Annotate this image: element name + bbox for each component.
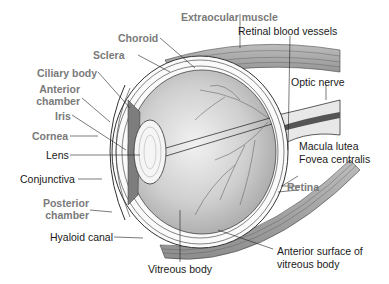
eye-anatomy-diagram: Choroid Extraocular muscle Retinal blood… bbox=[0, 0, 389, 284]
label-hyaloid-canal: Hyaloid canal bbox=[50, 231, 113, 243]
label-vitreous-body: Vitreous body bbox=[148, 263, 212, 275]
label-iris: Iris bbox=[55, 110, 71, 122]
label-retina: Retina bbox=[287, 181, 319, 193]
label-conjunctiva: Conjunctiva bbox=[20, 173, 75, 185]
label-fovea-centralis: Fovea centralis bbox=[299, 153, 370, 165]
label-anterior-chamber-1: Anterior bbox=[36, 83, 80, 95]
label-extraocular-muscle: Extraocular muscle bbox=[181, 11, 278, 23]
label-posterior-chamber-2: chamber bbox=[35, 209, 89, 221]
label-sclera: Sclera bbox=[93, 49, 125, 61]
label-macula-lutea: Macula lutea bbox=[299, 140, 359, 152]
label-retinal-blood-vessels: Retinal blood vessels bbox=[238, 25, 337, 37]
label-anterior-chamber-2: chamber bbox=[34, 95, 80, 107]
label-anterior-surface-1: Anterior surface of bbox=[277, 245, 363, 257]
label-ciliary-body: Ciliary body bbox=[37, 67, 97, 79]
label-posterior-chamber-1: Posterior bbox=[35, 197, 89, 209]
label-anterior-surface-2: vitreous body bbox=[277, 258, 339, 270]
label-choroid: Choroid bbox=[118, 32, 158, 44]
label-optic-nerve: Optic nerve bbox=[291, 76, 345, 88]
label-cornea: Cornea bbox=[32, 130, 68, 142]
label-lens: Lens bbox=[46, 149, 69, 161]
